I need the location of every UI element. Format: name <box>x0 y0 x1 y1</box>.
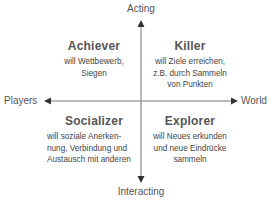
description-line: Austausch mit anderen <box>47 154 144 166</box>
axis-label-bottom: Interacting <box>0 186 277 198</box>
description-line: will Neues erkunden <box>140 131 240 143</box>
description-line: nung, Verbindung und <box>47 143 144 155</box>
description-line: will soziale Anerken- <box>47 131 144 143</box>
description-line: und neue Eindrücke <box>140 143 240 155</box>
quadrant-description: will Wettbewerb, Siegen <box>44 56 144 79</box>
quadrant-title: Explorer <box>140 114 240 129</box>
arrow-right-icon <box>231 98 238 105</box>
arrow-up-icon <box>138 20 145 27</box>
axes <box>0 0 277 203</box>
quadrant-description: will Ziele erreichen, z.B. durch Sammeln… <box>140 56 240 91</box>
axis-label-left: Players <box>4 95 37 107</box>
description-line: von Punkten <box>140 79 240 91</box>
description-line: z.B. durch Sammeln <box>140 68 240 80</box>
quadrant-title: Killer <box>140 39 240 54</box>
quadrant-title: Socializer <box>44 114 144 129</box>
description-line: will Ziele erreichen, <box>140 56 240 68</box>
quadrant-achiever: Achiever will Wettbewerb, Siegen <box>44 39 144 79</box>
description-line: will Wettbewerb, <box>44 56 144 68</box>
arrow-down-icon <box>138 176 145 183</box>
quadrant-killer: Killer will Ziele erreichen, z.B. durch … <box>140 39 240 91</box>
quadrant-explorer: Explorer will Neues erkunden und neue Ei… <box>140 114 240 166</box>
quadrant-title: Achiever <box>44 39 144 54</box>
quadrant-description: will Neues erkunden und neue Eindrücke s… <box>140 131 240 166</box>
arrow-left-icon <box>44 98 51 105</box>
quadrant-description: will soziale Anerken- nung, Verbindung u… <box>44 131 144 166</box>
quadrant-socializer: Socializer will soziale Anerken- nung, V… <box>44 114 144 166</box>
axis-label-top: Acting <box>0 3 277 15</box>
description-line: sammeln <box>140 154 240 166</box>
description-line: Siegen <box>44 68 144 80</box>
axis-label-right: World <box>241 95 267 107</box>
